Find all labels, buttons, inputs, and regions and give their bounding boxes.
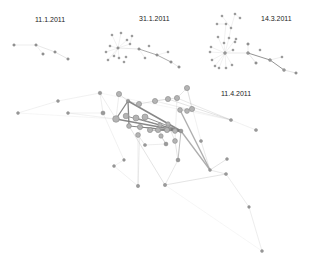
edge [224,24,226,43]
edge [118,48,119,58]
snapshot-date-label: 11.1.2011 [35,16,65,23]
node [67,58,70,61]
node [142,114,148,120]
edge [225,53,232,65]
node [42,53,45,56]
node [223,42,225,44]
edge [128,101,129,126]
edge [112,35,118,48]
node [152,98,157,103]
node [254,128,257,131]
edge [165,160,178,185]
edge [100,93,103,113]
edge [180,110,210,170]
edge [219,53,225,68]
node [209,51,211,53]
node [163,183,166,186]
node [144,57,146,59]
node [209,169,212,172]
node [173,129,178,134]
edge [231,120,256,130]
node [176,158,180,162]
snapshot-31-1-2011 [105,32,180,68]
node [101,111,105,115]
edge [175,141,178,160]
node [120,32,122,34]
node [123,159,126,162]
node [116,91,121,96]
node [148,45,150,47]
node [170,61,173,64]
snapshot-date-label: 14.3.2011 [261,15,292,22]
node [247,43,250,46]
node [248,206,251,209]
edge [18,101,58,113]
nodes [13,44,70,61]
node [136,184,139,187]
node [138,48,141,51]
node [113,55,115,57]
node [229,118,232,121]
node [133,115,139,121]
edge [231,14,235,28]
node [231,64,233,66]
edge [118,48,139,49]
node [261,250,264,253]
edge [229,28,231,38]
node [234,41,236,43]
node [173,139,178,144]
edge [249,207,262,251]
node [35,44,38,47]
node [164,127,169,132]
node [118,57,120,59]
node [127,124,132,129]
edge [215,53,225,66]
nodes [17,85,264,252]
edge [175,98,177,141]
node [57,100,60,103]
node [165,96,170,101]
node [228,37,230,39]
node [221,15,223,17]
node [232,49,234,51]
edge [100,93,231,120]
node [156,54,159,57]
snapshot-14-3-2011 [209,13,297,74]
node [155,127,160,132]
node [199,139,202,142]
edges [106,33,179,67]
edge [58,93,100,101]
node [126,39,128,41]
network-diagram [0,0,318,263]
edge [177,98,231,120]
node [178,66,181,69]
snapshot-date-label: 31.1.2011 [139,15,170,22]
node [295,72,298,75]
node [225,23,227,25]
node [125,56,127,58]
edge [222,16,231,28]
node [126,99,130,103]
node [179,129,183,133]
node [224,52,227,55]
node [225,67,227,69]
node [158,123,162,127]
edge [225,38,229,53]
edge [68,113,116,119]
node [131,35,133,37]
edge [157,55,171,62]
edge [270,57,282,60]
node [123,113,129,119]
edge [181,131,210,170]
edge [55,52,68,59]
node [143,143,146,146]
node [210,46,212,48]
node [230,27,232,29]
edge [118,44,130,48]
node [136,101,141,106]
node [239,17,241,19]
node [218,67,220,69]
node [17,112,20,115]
nodes [209,13,297,74]
node [137,124,142,129]
